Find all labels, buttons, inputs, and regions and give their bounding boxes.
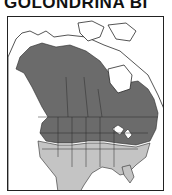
range-map [7,16,164,191]
range-map-svg [8,17,164,191]
map-title: GOLONDRINA BI [4,0,148,13]
arctic-islands [78,21,136,41]
